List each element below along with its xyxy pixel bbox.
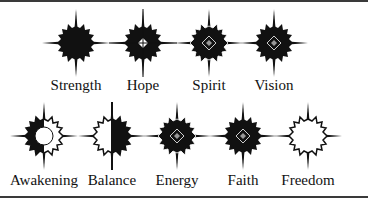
spirit-star-icon xyxy=(174,8,244,78)
energy-star-icon xyxy=(142,101,212,171)
bottom-border xyxy=(0,196,368,198)
faith-star-icon xyxy=(208,101,278,171)
balance-star-icon xyxy=(77,101,147,171)
freedom-label: Freedom xyxy=(263,172,353,188)
top-border xyxy=(0,0,368,2)
freedom-star-icon xyxy=(273,101,343,171)
awakening-star-icon xyxy=(9,101,79,171)
strength-star-icon xyxy=(41,8,111,78)
hope-star-icon xyxy=(108,8,178,78)
vision-label: Vision xyxy=(229,77,319,93)
vision-star-icon xyxy=(239,8,309,78)
